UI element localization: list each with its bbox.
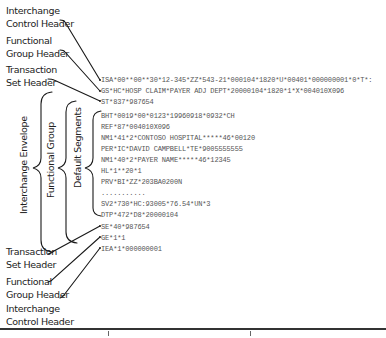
- bottom-rule: [0, 328, 386, 330]
- bottom-tick-right: [250, 331, 251, 336]
- brace-interchange-envelope: [33, 92, 52, 252]
- leader-line-isa: [60, 20, 100, 80]
- brace-functional-group: [58, 101, 77, 243]
- bottom-tick-left: [108, 331, 109, 336]
- leader-line-ge: [48, 237, 100, 282]
- diagram-lines: [0, 0, 386, 338]
- brace-default-segments: [85, 111, 101, 216]
- leader-line-se: [48, 226, 100, 254]
